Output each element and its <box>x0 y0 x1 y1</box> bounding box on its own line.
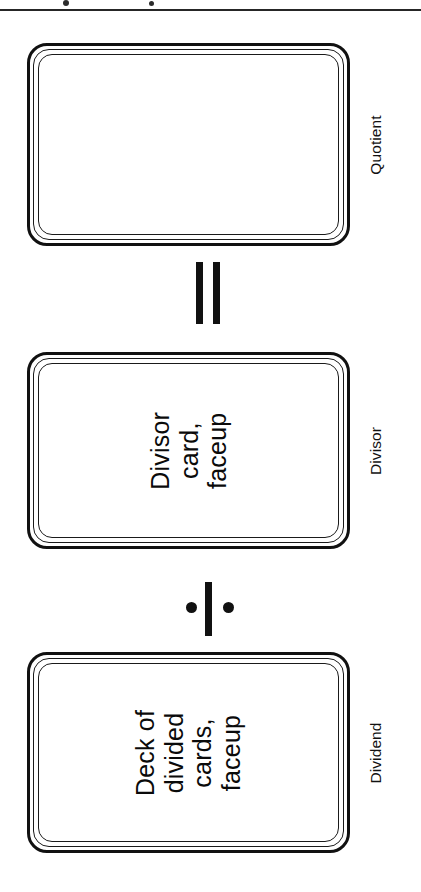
page-rule <box>0 9 421 11</box>
divisor-card[interactable]: Divisor card, faceup <box>27 352 350 549</box>
division-card-diagram: Quotient Divisor card, faceup Divisor <box>0 0 421 892</box>
equals-sign-icon <box>180 258 240 328</box>
quotient-label: Quotient <box>356 43 396 246</box>
divisor-card-line-2: card, <box>174 422 203 479</box>
division-dot-right <box>223 602 234 613</box>
dividend-card-line-4: faceup <box>217 714 246 790</box>
quotient-card[interactable] <box>27 43 350 246</box>
dividend-card-text: Deck of divided cards, faceup <box>30 655 347 850</box>
equals-bar-upper <box>196 262 203 324</box>
divisor-card-text: Divisor card, faceup <box>30 355 347 546</box>
divisor-card-line-1: Divisor <box>146 412 175 490</box>
card-border-middle <box>33 358 344 543</box>
quotient-label-text: Quotient <box>367 115 385 174</box>
dividend-card-line-3: cards, <box>189 718 218 787</box>
divisor-label-text: Divisor <box>367 426 385 474</box>
dividend-card[interactable]: Deck of divided cards, faceup <box>27 652 350 853</box>
division-dot-left <box>186 602 197 613</box>
clipped-glyph-mark <box>149 1 154 6</box>
card-border-middle <box>33 658 344 847</box>
dividend-label: Dividend <box>356 652 396 853</box>
equals-bar-lower <box>213 262 220 324</box>
divisor-card-line-3: faceup <box>203 412 232 488</box>
quotient-card-text <box>30 46 347 243</box>
dividend-label-text: Dividend <box>367 722 385 783</box>
card-border-inner <box>38 363 339 538</box>
card-border-middle <box>33 49 344 240</box>
dividend-card-line-2: divided <box>160 712 189 793</box>
division-bar <box>205 582 212 636</box>
card-border-inner <box>38 663 339 842</box>
dividend-card-line-1: Deck of <box>132 709 161 795</box>
clipped-glyph-mark <box>63 0 69 6</box>
divisor-label: Divisor <box>356 352 396 549</box>
card-border-inner <box>38 54 339 235</box>
division-sign-icon <box>178 580 238 638</box>
